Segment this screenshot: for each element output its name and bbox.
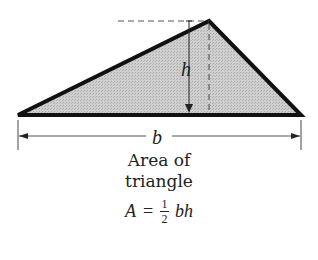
- formula-lhs: A: [125, 201, 136, 222]
- triangle-shape: [18, 21, 301, 115]
- base-label: b: [152, 126, 162, 148]
- height-label: h: [181, 58, 191, 80]
- caption-line-2: triangle: [0, 171, 318, 191]
- formula-rhs: bh: [175, 201, 193, 222]
- fraction-denominator: 2: [162, 213, 168, 225]
- formula-equals: =: [143, 201, 153, 222]
- area-formula: A = 1 2 bh: [0, 198, 318, 225]
- fraction-numerator: 1: [162, 198, 168, 210]
- formula-fraction: 1 2: [160, 198, 169, 225]
- caption-line-1: Area of: [0, 150, 318, 170]
- base-arrow-left-icon: [19, 133, 28, 139]
- base-arrow-right-icon: [291, 133, 300, 139]
